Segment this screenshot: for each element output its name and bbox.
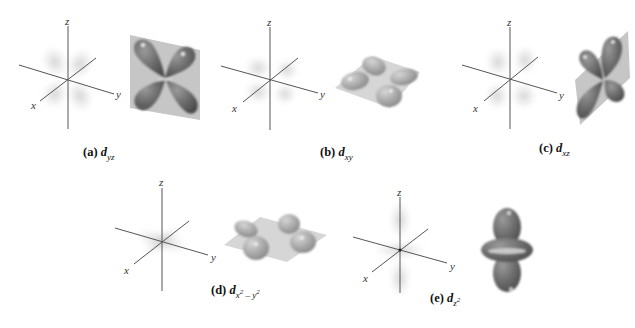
x-axis-label: x bbox=[472, 102, 478, 114]
orbital-subscript: yz bbox=[107, 152, 115, 162]
caption-a: (a) dyz bbox=[83, 145, 114, 162]
y-axis-label: y bbox=[319, 88, 325, 100]
probability-cloud-c bbox=[485, 45, 537, 110]
orbital-dxz bbox=[575, 31, 630, 125]
lobe-front-left bbox=[243, 236, 269, 260]
z-axis-label: z bbox=[64, 15, 70, 27]
z-axis-label: z bbox=[396, 186, 402, 198]
orbital-subscript: xy bbox=[345, 152, 353, 162]
axes-e: z y x bbox=[353, 186, 455, 298]
axes-d: z y x bbox=[115, 176, 216, 291]
torus-highlight bbox=[488, 248, 526, 254]
x-axis-label: x bbox=[30, 99, 36, 111]
z-axis-label: z bbox=[266, 16, 272, 28]
caption-letter: (e) bbox=[430, 291, 444, 305]
x-axis-label: x bbox=[231, 102, 237, 114]
y-axis-label: y bbox=[115, 88, 121, 100]
caption-d: (d) dx2 – y2 bbox=[211, 283, 260, 300]
axes-a: z y x bbox=[19, 15, 121, 129]
caption-letter: (d) bbox=[211, 283, 226, 297]
orbital-dyz bbox=[130, 35, 200, 120]
z-axis-label: z bbox=[158, 176, 164, 188]
caption-c: (c) dxz bbox=[539, 141, 570, 158]
orbital-subscript: z2 bbox=[453, 298, 460, 308]
caption-b: (b) dxy bbox=[320, 145, 353, 162]
axes-c: z y x bbox=[462, 16, 564, 129]
y-axis-label: y bbox=[449, 260, 455, 272]
x-axis-label: x bbox=[123, 264, 129, 276]
orbital-subscript: xz bbox=[562, 148, 570, 158]
panel-e: z y x bbox=[353, 186, 533, 298]
orbital-dz2 bbox=[481, 208, 533, 292]
orbital-dx2-y2 bbox=[224, 214, 327, 262]
lobe-front-right bbox=[290, 231, 316, 253]
panel-d: z y x bbox=[115, 176, 327, 291]
x-axis-label: x bbox=[362, 272, 368, 284]
panel-a: z y x bbox=[19, 15, 200, 129]
panel-b: z y x bbox=[221, 16, 420, 130]
orbital-subscript: x2 – y2 bbox=[236, 290, 260, 300]
caption-e: (e) dz2 bbox=[430, 291, 460, 308]
d-orbitals-figure: z y x bbox=[0, 0, 635, 328]
lobe-back-right bbox=[278, 214, 300, 234]
lobe-front bbox=[376, 85, 402, 107]
panel-c: z y x bbox=[462, 16, 630, 129]
caption-letter: (b) bbox=[320, 145, 335, 159]
orbital-dxy bbox=[335, 53, 420, 108]
y-axis-label: y bbox=[210, 251, 216, 263]
caption-letter: (c) bbox=[539, 141, 553, 155]
axes-b: z y x bbox=[221, 16, 325, 130]
z-axis-label: z bbox=[506, 16, 512, 28]
caption-letter: (a) bbox=[83, 145, 98, 159]
y-axis-label: y bbox=[558, 89, 564, 101]
